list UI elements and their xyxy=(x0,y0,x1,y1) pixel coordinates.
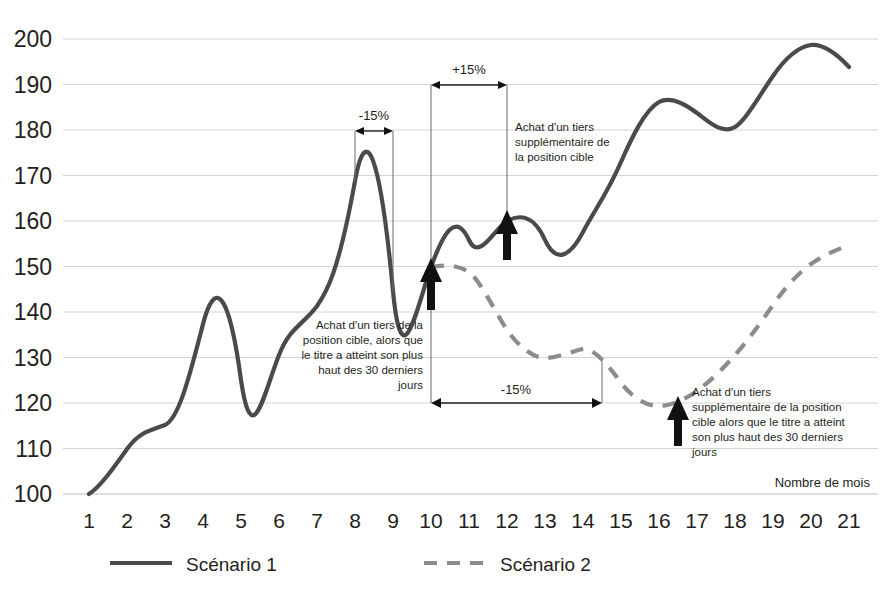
chart-legend: Scénario 1 Scénario 2 xyxy=(110,554,591,575)
arrowhead-left-minus15-bottom xyxy=(431,398,441,408)
label-plus15: +15% xyxy=(452,62,486,77)
annotation-achat-2: Achat d'un tiers supplémentaire de la po… xyxy=(515,121,610,163)
x-tick-21: 21 xyxy=(837,509,860,532)
annotation-achat-1-line-1: Achat d'un tiers de la xyxy=(316,319,424,331)
y-tick-150: 150 xyxy=(14,254,52,280)
annotation-achat-2-line-1: Achat d'un tiers xyxy=(515,121,594,133)
annotation-achat-3: Achat d'un tiers supplémentaire de la po… xyxy=(691,386,846,458)
y-tick-170: 170 xyxy=(14,163,52,189)
y-tick-140: 140 xyxy=(14,299,52,325)
x-tick-13: 13 xyxy=(533,509,556,532)
y-tick-180: 180 xyxy=(14,117,52,143)
y-tick-130: 130 xyxy=(14,345,52,371)
x-tick-15: 15 xyxy=(609,509,632,532)
y-tick-160: 160 xyxy=(14,208,52,234)
dim-arrow-minus15-bottom: -15% xyxy=(431,382,602,408)
annotation-achat-2-line-2: supplémentaire de xyxy=(515,136,610,148)
y-tick-110: 110 xyxy=(15,436,52,462)
chart-page: 200 190 180 170 160 150 140 130 120 110 … xyxy=(0,0,895,600)
x-tick-18: 18 xyxy=(723,509,746,532)
annotation-achat-3-line-5: jours xyxy=(691,446,717,458)
y-tick-200: 200 xyxy=(14,26,52,52)
x-tick-17: 17 xyxy=(685,509,708,532)
arrow-head-2 xyxy=(496,210,518,234)
annotation-achat-3-line-4: son plus haut des 30 derniers xyxy=(692,431,843,443)
label-minus15-bottom: -15% xyxy=(501,382,532,397)
x-axis-title: Nombre de mois xyxy=(775,475,871,490)
x-tick-7: 7 xyxy=(311,509,323,532)
y-tick-100: 100 xyxy=(14,481,52,507)
annotation-achat-3-line-2: supplémentaire de la position xyxy=(692,401,842,413)
x-tick-20: 20 xyxy=(799,509,822,532)
arrowhead-right-minus15-top xyxy=(384,127,393,135)
x-tick-10: 10 xyxy=(419,509,442,532)
legend-label-scenario-1: Scénario 1 xyxy=(186,554,277,575)
x-tick-9: 9 xyxy=(387,509,399,532)
y-tick-190: 190 xyxy=(14,72,52,98)
series-2-line xyxy=(431,245,849,406)
legend-label-scenario-2: Scénario 2 xyxy=(500,554,591,575)
annotation-achat-3-line-3: cible alors que le titre a atteint xyxy=(692,416,846,428)
x-tick-3: 3 xyxy=(159,509,171,532)
x-tick-11: 11 xyxy=(458,509,480,532)
arrow-head-1 xyxy=(420,258,442,282)
arrowhead-right-plus15 xyxy=(498,81,507,89)
x-tick-2: 2 xyxy=(121,509,133,532)
x-tick-4: 4 xyxy=(197,509,209,532)
x-tick-6: 6 xyxy=(273,509,285,532)
x-tick-14: 14 xyxy=(571,509,595,532)
y-axis-labels: 200 190 180 170 160 150 140 130 120 110 … xyxy=(14,26,52,507)
dim-arrow-plus15: +15% xyxy=(431,62,507,89)
line-chart: 200 190 180 170 160 150 140 130 120 110 … xyxy=(0,0,895,600)
x-tick-19: 19 xyxy=(761,509,784,532)
annotation-achat-1-line-5: jours xyxy=(397,379,423,391)
arrowhead-right-minus15-bottom xyxy=(592,398,602,408)
x-axis-labels: 1 2 3 4 5 6 7 8 9 10 11 12 13 14 15 16 1… xyxy=(83,509,861,532)
annotation-achat-1-line-2: position cible, alors que xyxy=(303,334,423,346)
x-tick-16: 16 xyxy=(647,509,670,532)
annotation-achat-1-line-3: le titre a atteint son plus xyxy=(302,349,424,361)
x-tick-5: 5 xyxy=(235,509,247,532)
annotation-achat-2-line-3: la position cible xyxy=(515,151,594,163)
x-tick-8: 8 xyxy=(349,509,361,532)
annotation-achat-3-line-1: Achat d'un tiers xyxy=(692,386,771,398)
dim-arrow-minus15-top: -15% xyxy=(355,108,393,135)
x-tick-12: 12 xyxy=(495,509,518,532)
label-minus15-top: -15% xyxy=(359,108,390,123)
arrowhead-left-plus15 xyxy=(431,81,440,89)
arrowhead-left-minus15-top xyxy=(355,127,364,135)
annotation-achat-1-line-4: haut des 30 derniers xyxy=(318,364,423,376)
annotation-achat-1: Achat d'un tiers de la position cible, a… xyxy=(302,319,424,391)
y-tick-120: 120 xyxy=(14,390,52,416)
x-tick-1: 1 xyxy=(83,509,95,532)
